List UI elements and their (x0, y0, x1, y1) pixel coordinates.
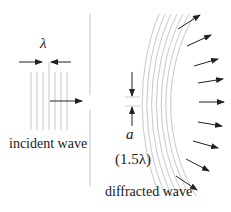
diffracted-wave-label: diffracted wave (105, 185, 192, 199)
slit-width-ticks (125, 97, 140, 106)
diffracted-arrows (176, 15, 224, 190)
slit-width-symbol: a (126, 127, 134, 142)
diffracted-wavefronts (142, 14, 196, 196)
diagram-canvas (0, 0, 231, 212)
slit-width-value: (1.5λ) (115, 152, 151, 167)
wavelength-label: λ (40, 36, 47, 51)
incident-wavefronts (31, 62, 67, 130)
incident-wave-label: incident wave (9, 137, 87, 151)
